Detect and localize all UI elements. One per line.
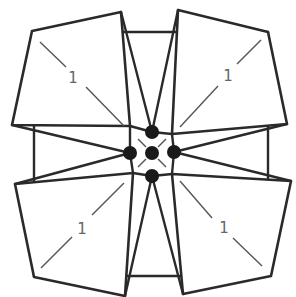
quad-bottom-right: 1: [172, 174, 291, 294]
quad-label: 1: [68, 69, 78, 87]
dot-left: [123, 146, 137, 160]
dot-right: [167, 145, 181, 159]
quad-top-left: 1: [12, 12, 130, 126]
dot-bottom: [145, 169, 159, 183]
dot-center: [145, 146, 159, 160]
dot-top: [145, 125, 159, 139]
quad-bottom-left: 1: [15, 173, 133, 296]
quad-label: 1: [77, 220, 87, 238]
quad-label: 1: [223, 67, 233, 85]
dissection-diagram: 1111: [0, 0, 296, 297]
quad-label: 1: [219, 219, 229, 237]
quad-top-right: 1: [172, 10, 287, 134]
